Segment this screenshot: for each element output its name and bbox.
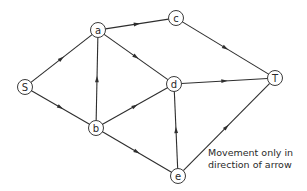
note-line-1: Movement only in [208,147,293,159]
node-a: a [91,23,106,38]
direction-note: Movement only in direction of arrow [208,147,293,171]
node-S: S [18,80,33,95]
node-c: c [169,11,184,26]
node-e: e [171,169,186,184]
node-d: d [167,77,182,92]
node-label: b [93,123,99,134]
node-label: S [22,82,28,93]
node-label: d [171,79,177,90]
arrow-icon [95,76,99,82]
arrow-icon [133,149,139,154]
node-b: b [89,121,104,136]
node-label: e [175,171,181,182]
node-label: a [95,25,101,36]
node-T: T [268,71,283,86]
arrow-icon [57,104,64,109]
arrow-icon [131,104,138,109]
node-label: c [173,13,179,24]
arrow-icon [174,127,178,133]
arrow-icon [222,45,228,50]
note-line-2: direction of arrow [208,159,293,171]
node-label: T [271,73,279,84]
